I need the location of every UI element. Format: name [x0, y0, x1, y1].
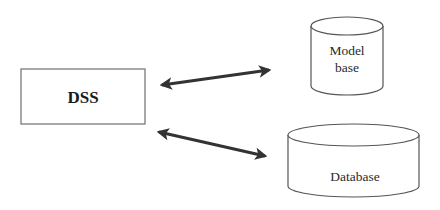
dss-label: DSS: [67, 88, 98, 107]
database-label: Database: [330, 169, 379, 184]
model-base-label-line2: base: [335, 60, 359, 75]
database-cylinder-top: [288, 124, 419, 146]
model-base-node: Model base: [311, 17, 383, 95]
dss-node: DSS: [21, 69, 145, 124]
dss-model-base-bidirectional-arrow: [162, 70, 269, 85]
database-node: Database: [288, 124, 419, 197]
model-base-cylinder-top: [311, 17, 383, 35]
dss-database-bidirectional-arrow: [159, 132, 265, 156]
model-base-label-line1: Model: [329, 43, 364, 58]
dss-architecture-diagram: DSS Model base Database: [0, 0, 440, 210]
